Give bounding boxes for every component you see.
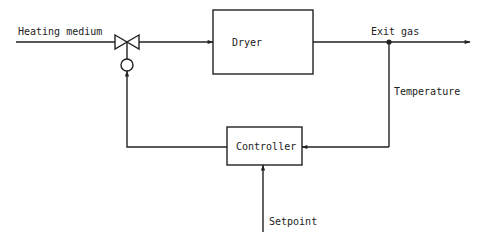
temperature-label: Temperature [394,86,460,97]
heating-medium-label: Heating medium [18,26,102,37]
valve-actuator-icon [121,59,133,71]
exit-gas-label: Exit gas [371,26,419,37]
controller-label: Controller [236,141,296,152]
dryer-label: Dryer [232,37,262,48]
dryer-block [213,10,313,74]
control-valve-icon [115,35,139,71]
controller-to-valve-line [127,71,227,147]
control-loop-diagram: Heating medium Dryer Exit gas Temperatur… [0,0,485,245]
setpoint-label: Setpoint [269,216,317,227]
